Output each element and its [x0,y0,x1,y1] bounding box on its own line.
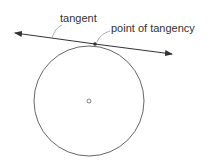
center-point [87,99,91,103]
point-of-tangency-label: point of tangency [111,22,195,34]
tangency-leader [97,31,110,42]
tangent-leader [52,25,62,38]
circle [34,46,144,156]
point-of-tangency [93,42,97,46]
tangent-line [15,33,95,44]
tangent-label: tangent [60,12,97,24]
